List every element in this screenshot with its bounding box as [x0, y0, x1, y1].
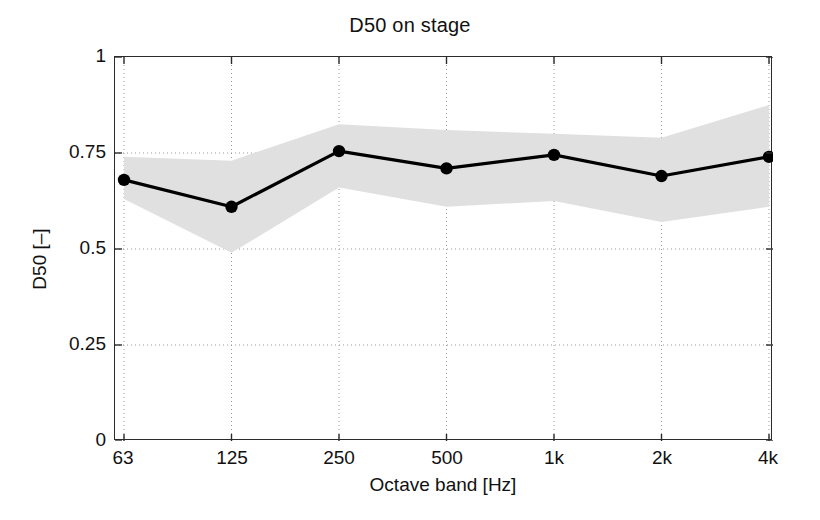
- x-tick-label-2k: 2k: [622, 447, 702, 469]
- plot-area: [114, 56, 772, 440]
- y-tick-label-075: 0.75: [46, 141, 106, 163]
- gridlines: [115, 57, 773, 441]
- plot-canvas: [115, 57, 773, 441]
- x-tick-label-500: 500: [407, 447, 487, 469]
- y-tick-label-05: 0.5: [46, 237, 106, 259]
- chart-title: D50 on stage: [0, 14, 820, 37]
- spread-band: [124, 105, 769, 253]
- x-tick-label-1k: 1k: [514, 447, 594, 469]
- chart-figure: D50 on stage 0 0.25 0.5 0.75 1 D50 [–] 6…: [0, 0, 820, 520]
- x-tick-label-63: 63: [83, 447, 163, 469]
- x-tick-label-125: 125: [192, 447, 272, 469]
- x-tick-label-250: 250: [299, 447, 379, 469]
- y-tick-label-1: 1: [46, 45, 106, 67]
- y-tick-label-025: 0.25: [46, 333, 106, 355]
- y-axis-label: D50 [–]: [29, 159, 51, 359]
- x-tick-label-4k: 4k: [728, 447, 808, 469]
- x-axis-label: Octave band [Hz]: [114, 474, 772, 496]
